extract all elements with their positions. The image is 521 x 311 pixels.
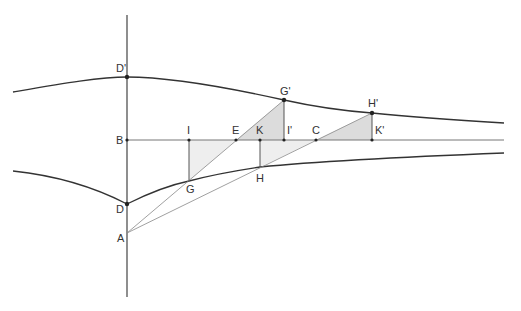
label-B: B [116, 134, 123, 146]
label-K-prime: K' [375, 124, 384, 136]
label-E: E [232, 124, 239, 136]
geometry-diagram: D' B D A I G E K H G' I' C H' K' [0, 0, 521, 311]
point-K-prime [370, 138, 373, 141]
label-I-prime: I' [287, 124, 292, 136]
label-A: A [117, 232, 125, 244]
label-G: G [186, 183, 195, 195]
label-G-prime: G' [280, 85, 291, 97]
label-D: D [116, 203, 124, 215]
point-H-prime [370, 111, 374, 115]
point-E [234, 138, 237, 141]
label-I: I [187, 124, 190, 136]
point-G-prime [282, 98, 286, 102]
label-K: K [256, 124, 264, 136]
point-I [187, 138, 190, 141]
point-B [125, 138, 128, 141]
point-D-prime [125, 75, 129, 79]
point-K [258, 138, 261, 141]
point-I-prime [282, 138, 285, 141]
point-D [125, 202, 129, 206]
label-D-prime: D' [116, 62, 126, 74]
upper-curve [13, 77, 504, 123]
label-C: C [312, 124, 320, 136]
label-H-prime: H' [368, 97, 378, 109]
point-C [314, 138, 317, 141]
label-H: H [256, 172, 264, 184]
